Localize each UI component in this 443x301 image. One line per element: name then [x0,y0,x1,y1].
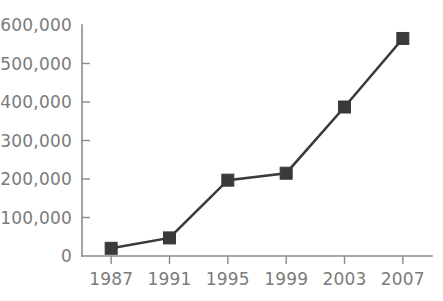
x-axis-tick-label: 1991 [147,269,191,289]
y-axis-tick-label: 200,000 [0,169,72,189]
data-point-marker [222,174,234,186]
y-axis-tick-label: 100,000 [0,208,72,228]
data-point-marker [339,101,351,113]
x-axis-tick-label: 1987 [89,269,133,289]
x-axis-tick-label: 2003 [322,269,366,289]
line-chart: 0100,000200,000300,000400,000500,000600,… [0,0,443,301]
chart-canvas: 0100,000200,000300,000400,000500,000600,… [0,0,443,301]
y-axis-tick-label: 600,000 [0,15,72,35]
y-axis-tick-label: 400,000 [0,92,72,112]
data-point-marker [280,167,292,179]
x-axis-tick-label: 2007 [381,269,425,289]
y-axis-tick-label: 500,000 [0,54,72,74]
series-line [111,38,403,248]
data-point-marker [105,242,117,254]
data-point-marker [397,32,409,44]
data-point-marker [164,232,176,244]
y-axis-tick-label: 300,000 [0,131,72,151]
x-axis-tick-label: 1999 [264,269,308,289]
x-axis-tick-label: 1995 [206,269,250,289]
y-axis-tick-label: 0 [61,246,72,266]
